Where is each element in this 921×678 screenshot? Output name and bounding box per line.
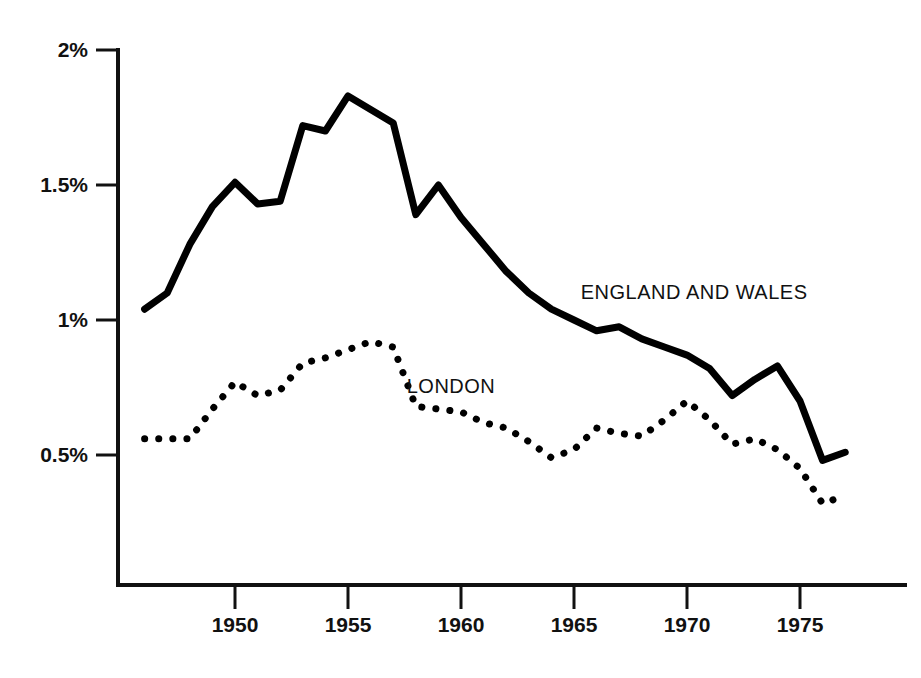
- axis-lines: [118, 50, 905, 585]
- series-label-england-and-wales: ENGLAND AND WALES: [581, 281, 808, 304]
- series-label-london: LONDON: [407, 375, 496, 398]
- axes-group: [96, 50, 905, 609]
- x-axis-tick-label: 1960: [438, 613, 485, 637]
- x-axis-tick-label: 1975: [777, 613, 824, 637]
- series-line-england-and-wales: [145, 96, 846, 461]
- y-axis-tick-label: 2%: [0, 38, 88, 62]
- x-axis-tick-label: 1950: [212, 613, 259, 637]
- y-axis-tick-label: 0.5%: [0, 443, 88, 467]
- x-axis-tick-label: 1970: [664, 613, 711, 637]
- chart-container: 2%1.5%1%0.5% 195019551960196519701975 EN…: [0, 0, 921, 678]
- line-chart-plot: [0, 0, 921, 678]
- x-axis-tick-label: 1965: [551, 613, 598, 637]
- y-axis-tick-label: 1.5%: [0, 173, 88, 197]
- y-axis-tick-marks: [96, 50, 118, 455]
- x-axis-tick-marks: [235, 585, 800, 609]
- x-axis-tick-label: 1955: [325, 613, 372, 637]
- y-axis-tick-label: 1%: [0, 308, 88, 332]
- series-line-london: [145, 342, 846, 504]
